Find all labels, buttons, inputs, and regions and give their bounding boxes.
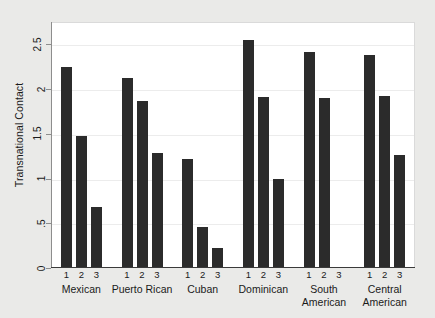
x-axis-group-label-line: Cuban: [187, 283, 218, 295]
bar: [243, 40, 254, 268]
bar: [152, 153, 163, 268]
x-axis-subgroup-label: 2: [74, 269, 88, 280]
y-axis-tick-labels: 0.511.522.5: [27, 22, 45, 268]
x-axis-subgroup-label: 2: [256, 269, 270, 280]
x-axis-subgroup-label: 3: [393, 269, 407, 280]
bar: [273, 179, 284, 268]
bar: [304, 52, 315, 268]
x-axis-subgroup-label: 3: [271, 269, 285, 280]
y-axis-tick-label: 1: [27, 173, 45, 185]
x-axis-subgroup-label: 1: [120, 269, 134, 280]
y-axis-tick-label-text: 1.5: [33, 127, 44, 141]
x-axis-subgroup-label: 3: [332, 269, 346, 280]
bar: [137, 101, 148, 268]
y-axis-tick-mark: [46, 179, 51, 180]
bar: [364, 55, 375, 268]
gridline: [51, 90, 414, 91]
bar: [379, 96, 390, 268]
x-axis-labels: 123Mexican123Puerto Rican123Cuban123Domi…: [51, 269, 415, 318]
y-axis-tick-mark: [46, 268, 51, 269]
x-axis-group-label: CentralAmerican: [337, 283, 433, 308]
x-axis-subgroup-label: 1: [363, 269, 377, 280]
y-axis-tick-label: .5: [27, 217, 45, 229]
y-axis-tick-mark: [46, 89, 51, 90]
x-axis-subgroup-label: 3: [150, 269, 164, 280]
bar: [394, 155, 405, 268]
x-axis-subgroup-label: 1: [302, 269, 316, 280]
y-axis-title-text: Transnational Contact: [13, 83, 25, 187]
bar: [319, 98, 330, 268]
y-axis-tick-label: 2.5: [27, 38, 45, 50]
bar: [76, 136, 87, 268]
x-axis-subgroup-label: 1: [59, 269, 73, 280]
gridline: [51, 135, 414, 136]
y-axis-tick-mark: [46, 134, 51, 135]
x-axis-subgroup-label: 2: [317, 269, 331, 280]
x-axis-subgroup-label: 1: [241, 269, 255, 280]
y-axis-tick-label-text: .5: [35, 219, 46, 227]
x-axis-subgroup-label: 1: [181, 269, 195, 280]
y-axis-tick-mark: [46, 44, 51, 45]
bar: [258, 97, 269, 268]
y-axis-tick-label-text: 2.5: [33, 37, 44, 51]
bar: [197, 227, 208, 268]
x-axis-group-label-line: South: [310, 283, 337, 295]
y-axis-line: [51, 22, 52, 268]
y-axis-tick-mark: [46, 223, 51, 224]
bar: [61, 67, 72, 268]
x-axis-subgroup-label: 2: [196, 269, 210, 280]
y-axis-tick-label: 1.5: [27, 128, 45, 140]
x-axis-subgroup-label: 2: [378, 269, 392, 280]
plot-area: [51, 22, 415, 268]
bar-chart-figure: Transnational Contact 0.511.522.5 123Mex…: [0, 0, 435, 318]
gridline: [51, 45, 414, 46]
gridline: [51, 180, 414, 181]
x-axis-group-label-line: Central: [368, 283, 402, 295]
y-axis-tick-label: 2: [27, 83, 45, 95]
x-axis-group-label-line: American: [362, 296, 406, 308]
gridline: [51, 224, 414, 225]
bar: [122, 78, 133, 268]
bar: [91, 207, 102, 268]
x-axis-subgroup-label: 2: [135, 269, 149, 280]
x-axis-line: [51, 267, 415, 268]
bar: [182, 159, 193, 268]
bar: [212, 248, 223, 268]
y-axis-tick-label: 0: [27, 262, 45, 274]
x-axis-subgroup-label: 3: [211, 269, 225, 280]
x-axis-subgroup-label: 3: [89, 269, 103, 280]
